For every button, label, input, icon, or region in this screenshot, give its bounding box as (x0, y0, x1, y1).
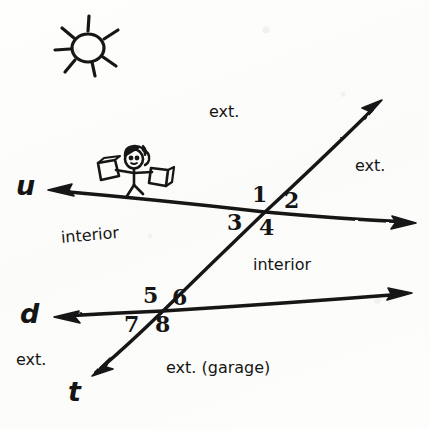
line-label-t: t (68, 378, 81, 405)
line-label-u: u (16, 172, 35, 199)
line-d-shaft (64, 294, 404, 316)
angle-number-4: 4 (259, 216, 274, 238)
region-label-interior-right: interior (253, 257, 311, 273)
angle-number-1: 1 (252, 183, 267, 205)
angle-number-8: 8 (155, 313, 170, 335)
diagram-canvas: u d t 1 2 3 4 5 6 7 8 ext. ext. interior… (0, 0, 429, 429)
line-d-arrow-right (387, 288, 412, 300)
region-label-exterior-right: ext. (355, 158, 385, 174)
line-label-d: d (20, 300, 39, 327)
angle-number-5: 5 (143, 284, 158, 306)
region-label-exterior-left-bottom: ext. (16, 352, 46, 368)
line-u-arrow-left (48, 184, 74, 196)
angle-number-7: 7 (124, 313, 139, 335)
sun-body (72, 34, 104, 62)
angle-number-6: 6 (172, 286, 187, 308)
figure-eye-left (130, 157, 132, 159)
line-d-group (54, 288, 412, 323)
region-label-exterior-bottom-garage: ext. (garage) (166, 360, 270, 376)
region-label-exterior-top: ext. (209, 104, 239, 120)
sun-icon (55, 16, 118, 76)
figure-mouth (131, 163, 137, 164)
figure-box-right (149, 168, 168, 186)
line-u-arrow-right (391, 216, 416, 229)
angle-number-3: 3 (227, 211, 242, 233)
angle-number-2: 2 (284, 189, 299, 211)
figure-leg-left (127, 185, 134, 196)
sun-rays (55, 16, 118, 76)
figure-leg-right (134, 185, 143, 194)
figure-eye-right (136, 157, 138, 159)
stick-figure-icon (98, 146, 174, 196)
